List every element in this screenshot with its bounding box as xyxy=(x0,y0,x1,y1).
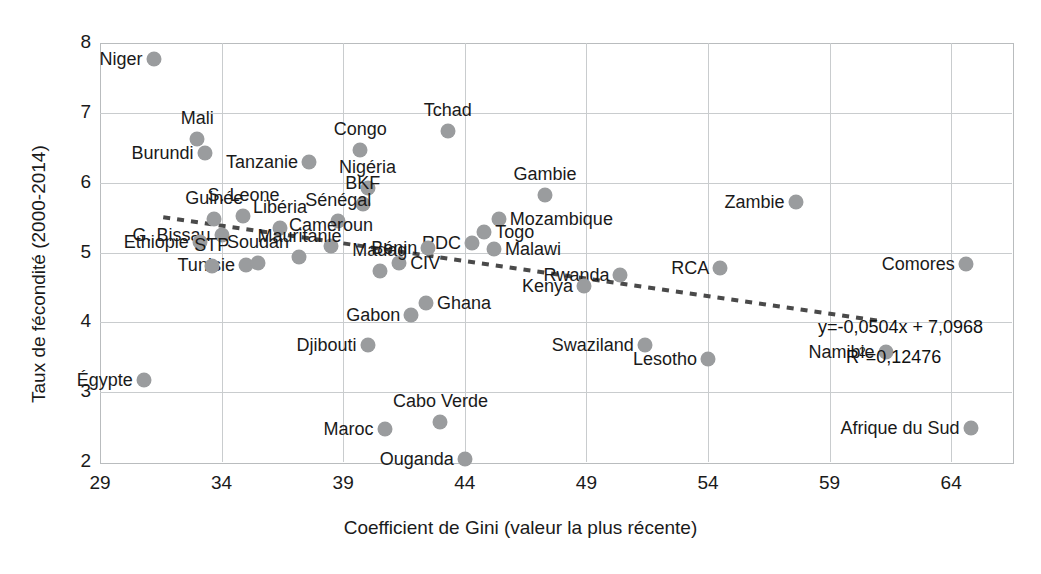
x-axis-title: Coefficient de Gini (valeur la plus réce… xyxy=(0,517,1041,539)
data-point-label: Tchad xyxy=(424,100,472,121)
data-point-label: Congo xyxy=(334,119,387,140)
data-point-label: Niger xyxy=(99,49,142,70)
data-point[interactable] xyxy=(538,188,553,203)
data-point[interactable] xyxy=(477,224,492,239)
data-point[interactable] xyxy=(292,250,307,265)
data-point[interactable] xyxy=(701,352,716,367)
data-point-label: Guinée xyxy=(185,188,243,209)
data-point-label: Ghana xyxy=(437,293,491,314)
data-point-label: Madag xyxy=(352,240,407,261)
data-point-label: Cabo Verde xyxy=(393,391,488,412)
data-point[interactable] xyxy=(404,308,419,323)
x-tick-label: 44 xyxy=(435,472,495,494)
data-point[interactable] xyxy=(440,123,455,138)
data-point[interactable] xyxy=(433,415,448,430)
data-point-label: Soudan xyxy=(227,232,289,253)
data-point[interactable] xyxy=(236,209,251,224)
data-point-label: Ethiopie xyxy=(124,232,189,253)
gridline-horizontal xyxy=(100,392,1012,393)
data-point[interactable] xyxy=(963,420,978,435)
x-tick-label: 49 xyxy=(556,472,616,494)
data-point-label: Malawi xyxy=(505,239,561,260)
y-tick-label: 7 xyxy=(80,101,91,123)
data-point[interactable] xyxy=(788,195,803,210)
data-point[interactable] xyxy=(146,52,161,67)
data-point[interactable] xyxy=(302,154,317,169)
x-tick-label: 34 xyxy=(192,472,252,494)
x-tick-label: 29 xyxy=(70,472,130,494)
data-point-label: Lesotho xyxy=(633,349,697,370)
scatter-chart: Taux de fécondité (2000-2014) Coefficien… xyxy=(0,0,1041,574)
gridline-horizontal xyxy=(100,113,1012,114)
data-point-label: Gabon xyxy=(346,305,400,326)
data-point[interactable] xyxy=(251,255,266,270)
y-tick-label: 2 xyxy=(80,450,91,472)
data-point[interactable] xyxy=(713,260,728,275)
data-point-label: Tanzanie xyxy=(226,151,298,172)
data-point[interactable] xyxy=(197,145,212,160)
data-point-label: Swaziland xyxy=(552,335,634,356)
y-tick-label: 5 xyxy=(80,241,91,263)
data-point-label: Burundi xyxy=(132,142,194,163)
data-point[interactable] xyxy=(377,422,392,437)
data-point-label: Mali xyxy=(181,108,214,129)
data-point-label: Ouganda xyxy=(380,448,454,469)
data-point[interactable] xyxy=(353,142,368,157)
x-tick-label: 59 xyxy=(800,472,860,494)
data-point[interactable] xyxy=(360,338,375,353)
data-point-label: Sénégal xyxy=(305,190,371,211)
y-tick-label: 6 xyxy=(80,171,91,193)
data-point[interactable] xyxy=(204,259,219,274)
data-point[interactable] xyxy=(958,256,973,271)
data-point[interactable] xyxy=(418,296,433,311)
data-point-label: Afrique du Sud xyxy=(841,417,960,438)
data-point-label: Zambie xyxy=(725,192,785,213)
data-point[interactable] xyxy=(372,263,387,278)
data-point-label: Comores xyxy=(882,253,955,274)
x-tick-label: 39 xyxy=(313,472,373,494)
y-tick-label: 4 xyxy=(80,310,91,332)
trendline-equation: y=-0,0504x + 7,0968 xyxy=(818,317,983,338)
data-point[interactable] xyxy=(613,267,628,282)
y-tick-label: 8 xyxy=(80,31,91,53)
data-point[interactable] xyxy=(465,236,480,251)
y-axis-title: Taux de fécondité (2000-2014) xyxy=(28,145,50,403)
x-tick-label: 64 xyxy=(921,472,981,494)
data-point[interactable] xyxy=(576,279,591,294)
data-point[interactable] xyxy=(486,242,501,257)
data-point-label: Maroc xyxy=(324,419,374,440)
data-point-label: Djibouti xyxy=(296,335,356,356)
data-point-label: Égypte xyxy=(77,370,133,391)
data-point[interactable] xyxy=(136,373,151,388)
data-point-label: STP xyxy=(194,235,229,256)
data-point-label: CIV xyxy=(410,252,440,273)
data-point-label: Gambie xyxy=(514,164,577,185)
data-point-label: Kenya xyxy=(522,276,573,297)
data-point[interactable] xyxy=(457,451,472,466)
trendline-r2: R2=0,12476 xyxy=(846,345,941,368)
x-tick-label: 54 xyxy=(678,472,738,494)
data-point-label: RCA xyxy=(671,257,709,278)
